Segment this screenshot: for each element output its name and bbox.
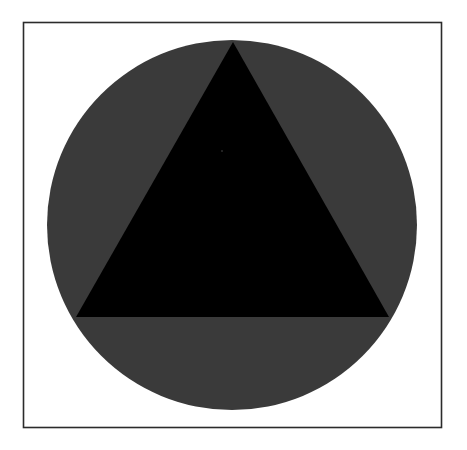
geometric-figure-svg	[0, 0, 467, 450]
figure-canvas	[0, 0, 467, 450]
faint-speck	[221, 150, 223, 152]
